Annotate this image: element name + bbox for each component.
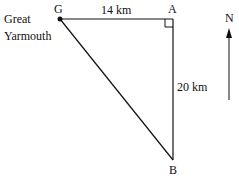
point-label-b: B xyxy=(169,163,177,177)
side-gb xyxy=(60,19,173,160)
point-g-dot xyxy=(58,17,63,22)
point-label-a: A xyxy=(168,2,177,16)
right-angle-marker xyxy=(165,19,173,27)
place-label-yarmouth: Yarmouth xyxy=(4,29,51,43)
north-arrow-icon xyxy=(226,28,232,38)
north-label: N xyxy=(225,11,234,25)
place-label-great: Great xyxy=(4,12,31,26)
distance-label-ga: 14 km xyxy=(101,3,131,17)
point-label-g: G xyxy=(54,2,63,16)
distance-label-ab: 20 km xyxy=(177,80,207,94)
